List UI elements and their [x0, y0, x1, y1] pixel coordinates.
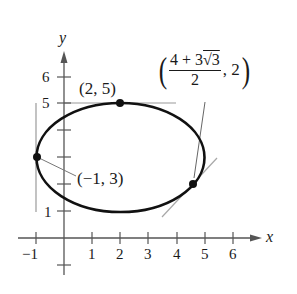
- top-point-label: (2, 5): [79, 80, 116, 97]
- y-tick-label-6: 6: [42, 70, 50, 85]
- x-axis-label: x: [266, 229, 273, 245]
- fraction-numerator: 4 + 3√3: [169, 52, 221, 71]
- point-top: [116, 99, 124, 107]
- y-axis-label: y: [59, 30, 66, 46]
- left-point-label: (−1, 3): [77, 170, 123, 187]
- numerator-text: 4 + 3: [170, 51, 203, 68]
- x-tick-label: 2: [116, 247, 124, 262]
- x-tick-label: 4: [173, 247, 181, 262]
- x-tick-label: 6: [229, 247, 237, 262]
- x-tick-label: 5: [201, 247, 209, 262]
- point-right: [189, 180, 197, 188]
- x-axis-arrow-icon: [250, 235, 262, 242]
- fraction: 4 + 3√3 2: [169, 52, 221, 89]
- open-paren: (: [159, 52, 167, 88]
- x-tick-label: 1: [88, 247, 96, 262]
- point-left: [33, 153, 41, 161]
- right-point-label: ( 4 + 3√3 2 , 2 ): [157, 52, 252, 89]
- y-coordinate: , 2: [223, 60, 240, 80]
- y-tick-label-5: 5: [42, 96, 50, 111]
- fraction-denominator: 2: [191, 71, 199, 89]
- x-tick-label: 3: [144, 247, 152, 262]
- x-tick-label: −1: [22, 247, 38, 262]
- y-axis-arrow-icon: [61, 51, 68, 63]
- sqrt-three: √3: [203, 51, 220, 68]
- left-point-leader: [37, 157, 76, 176]
- close-paren: ): [242, 52, 250, 88]
- y-tick-label-1: 1: [44, 205, 52, 220]
